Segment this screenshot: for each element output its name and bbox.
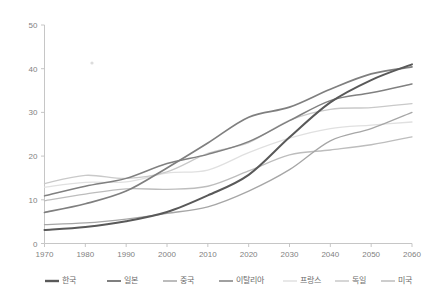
legend-item-label[interactable]: 중국 <box>180 276 194 285</box>
series-group <box>45 64 413 230</box>
y-tick-label: 40 <box>29 65 38 74</box>
y-axis-tick-group: 01020304050 <box>29 21 45 249</box>
legend-item-label[interactable]: 독일 <box>352 276 366 285</box>
y-tick-label: 0 <box>33 240 38 249</box>
line-chart: 01020304050 1970198019902000201020202030… <box>0 0 435 302</box>
legend-item-label[interactable]: 일본 <box>124 276 138 285</box>
x-tick-label: 1970 <box>36 250 54 259</box>
legend-item-label[interactable]: 이탈리아 <box>236 275 265 285</box>
x-tick-label: 2020 <box>240 250 258 259</box>
y-tick-label: 50 <box>29 21 38 30</box>
y-tick-label: 10 <box>29 196 38 205</box>
y-tick-label: 30 <box>29 108 38 117</box>
x-tick-label: 2040 <box>321 250 339 259</box>
x-tick-label: 2000 <box>158 250 176 259</box>
x-tick-label: 2010 <box>199 250 217 259</box>
x-tick-label: 2060 <box>403 250 421 259</box>
x-tick-label: 2050 <box>362 250 380 259</box>
y-tick-label: 20 <box>29 152 38 161</box>
legend-item-label[interactable]: 프랑스 <box>300 275 321 285</box>
legend-item-label[interactable]: 한국 <box>62 276 76 285</box>
x-tick-label: 2030 <box>281 250 299 259</box>
chart-svg: 01020304050 1970198019902000201020202030… <box>0 0 435 302</box>
series-line <box>45 122 413 187</box>
x-axis-tick-group: 1970198019902000201020202030204020502060 <box>36 244 422 259</box>
x-tick-label: 1990 <box>117 250 135 259</box>
series-line <box>45 67 413 213</box>
x-tick-label: 1980 <box>76 250 94 259</box>
series-line <box>45 104 413 184</box>
legend-item-label[interactable]: 미국 <box>398 276 412 285</box>
series-line <box>45 137 413 201</box>
stray-dot-artifact <box>90 61 93 64</box>
legend: 한국일본중국이탈리아프랑스독일미국 <box>45 275 412 285</box>
